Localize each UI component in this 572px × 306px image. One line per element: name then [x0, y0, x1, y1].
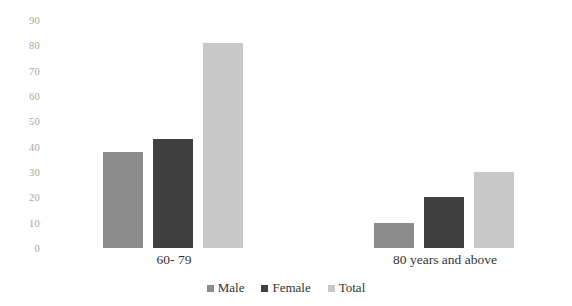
bar-female-group-0	[153, 139, 193, 248]
legend-item-female[interactable]: Female	[261, 280, 310, 296]
chart-legend: MaleFemaleTotal	[0, 280, 572, 296]
legend-label-female: Female	[272, 280, 310, 296]
bar-male-group-1	[374, 223, 414, 248]
category-label-group-0: 60- 79	[157, 252, 192, 268]
bar-total-group-1	[474, 172, 514, 248]
legend-swatch-male-icon	[207, 285, 214, 292]
legend-swatch-female-icon	[261, 285, 268, 292]
bars-layer	[0, 0, 572, 248]
bar-total-group-0	[203, 43, 243, 248]
category-label-group-1: 80 years and above	[393, 252, 497, 268]
legend-item-total[interactable]: Total	[328, 280, 366, 296]
legend-item-male[interactable]: Male	[207, 280, 245, 296]
bar-chart: 90 80 70 60 50 40 30 20 10 0 60- 79 80 y…	[0, 0, 572, 306]
bar-female-group-1	[424, 197, 464, 248]
legend-swatch-total-icon	[328, 285, 335, 292]
legend-label-male: Male	[218, 280, 245, 296]
bar-male-group-0	[103, 152, 143, 248]
legend-label-total: Total	[339, 280, 366, 296]
